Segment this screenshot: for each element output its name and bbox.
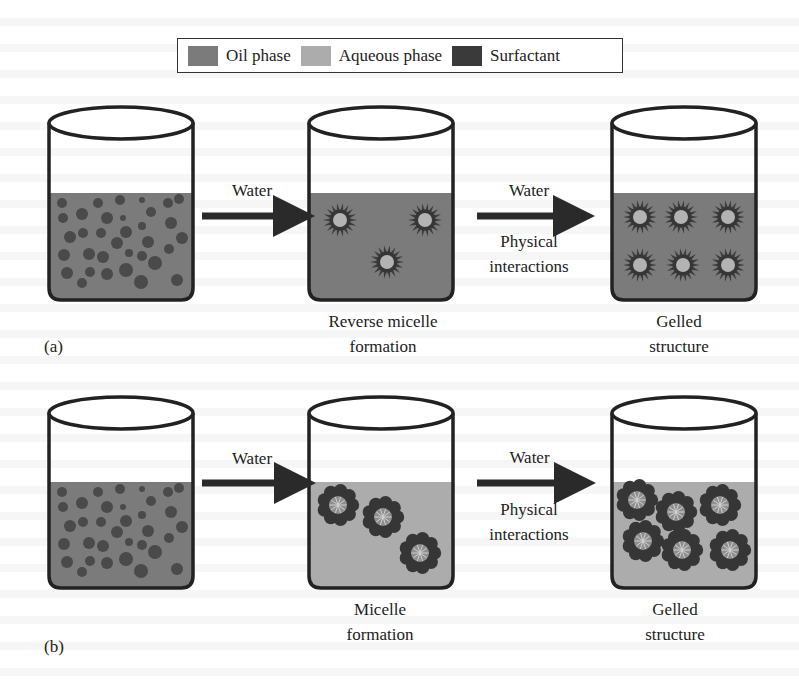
arrow-label-physical: Physical (467, 229, 591, 254)
arrow-label-water: Water (477, 178, 581, 203)
micelle-core (676, 258, 690, 272)
arrow-label-water: Water (477, 445, 582, 470)
surfactant-swatch-icon (452, 46, 482, 66)
oil-droplet (93, 487, 103, 497)
oil-droplet (101, 212, 113, 224)
oil-droplet (125, 538, 133, 546)
oil-droplet (58, 502, 68, 512)
arrow-label-water: Water (202, 178, 302, 203)
aqueous-swatch-icon (301, 46, 331, 66)
legend: Oil phase Aqueous phase Surfactant (177, 38, 623, 73)
legend-label: Oil phase (226, 46, 291, 66)
oil-droplet (171, 274, 183, 286)
oil-droplet (57, 198, 67, 208)
oil-droplet (138, 511, 146, 519)
micelle-core (633, 210, 647, 224)
oil-droplet (76, 497, 88, 509)
oil-droplet (85, 556, 95, 566)
legend-label: Aqueous phase (339, 46, 442, 66)
oil-droplet (138, 222, 146, 230)
oil-droplet (139, 197, 145, 203)
oil-swatch-icon (188, 46, 218, 66)
micelle-core (633, 258, 647, 272)
panel-label-a: (a) (44, 334, 74, 359)
caption-gelled: Gelled (600, 597, 750, 622)
oil-droplet (78, 228, 88, 238)
oil-droplet (163, 487, 173, 497)
oil-droplet (171, 563, 183, 575)
oil-droplet (137, 251, 147, 261)
beaker-rim (612, 397, 756, 429)
oil-droplet (115, 195, 125, 205)
beaker-rim (309, 397, 453, 429)
oil-droplet (148, 256, 162, 270)
oil-droplet (96, 517, 106, 527)
micelle-core (380, 255, 394, 269)
oil-droplet (120, 215, 126, 221)
oil-droplet (93, 198, 103, 208)
oil-droplet (176, 232, 188, 244)
caption-structure: structure (604, 334, 754, 359)
oil-droplet (64, 231, 76, 243)
caption-reverse-micelle: Reverse micelle (303, 309, 463, 334)
oil-droplet (174, 483, 184, 493)
oil-droplet (78, 517, 88, 527)
oil-droplet (148, 545, 162, 559)
oil-droplet (120, 226, 132, 238)
oil-droplet (174, 194, 184, 204)
beaker-rim (309, 107, 453, 139)
oil-droplet (77, 567, 87, 577)
oil-droplet (164, 533, 174, 543)
figure-canvas: Oil phase Aqueous phase Surfactant Water… (0, 0, 799, 684)
beaker-rim (612, 107, 756, 139)
oil-droplet (57, 487, 67, 497)
legend-item-aqueous: Aqueous phase (301, 46, 446, 66)
legend-item-surfactant: Surfactant (452, 46, 564, 66)
oil-droplet (77, 278, 87, 288)
oil-droplet (134, 564, 148, 578)
arrow-label-water: Water (202, 446, 302, 471)
oil-droplet (120, 515, 132, 527)
oil-droplet (58, 213, 68, 223)
oil-droplet (164, 244, 174, 254)
oil-droplet (146, 207, 156, 217)
oil-droplet (111, 526, 123, 538)
legend-item-oil: Oil phase (188, 46, 295, 66)
arrow-label-interactions: interactions (467, 254, 591, 279)
oil-droplet (119, 552, 133, 566)
caption-micelle: Micelle (303, 597, 457, 622)
beaker-rim (49, 397, 193, 429)
oil-droplet (125, 249, 133, 257)
oil-droplet (58, 249, 70, 261)
oil-droplet (165, 217, 177, 229)
legend-label: Surfactant (490, 46, 560, 66)
oil-droplet (97, 540, 109, 552)
oil-droplet (139, 486, 145, 492)
micelle-core (721, 258, 735, 272)
oil-droplet (97, 251, 109, 263)
oil-droplet (61, 267, 73, 279)
oil-droplet (115, 484, 125, 494)
oil-droplet (137, 540, 147, 550)
oil-droplet (76, 208, 88, 220)
oil-droplet (85, 267, 95, 277)
oil-droplet (165, 506, 177, 518)
oil-droplet (64, 520, 76, 532)
oil-droplet (111, 237, 123, 249)
oil-droplet (176, 521, 188, 533)
oil-droplet (163, 198, 173, 208)
micelle-core (674, 210, 688, 224)
caption-formation: formation (303, 334, 463, 359)
micelle-core (721, 210, 735, 224)
arrow-label-interactions: interactions (467, 522, 591, 547)
oil-droplet (142, 525, 154, 537)
oil-droplet (101, 501, 113, 513)
micelle-core (333, 213, 347, 227)
caption-formation: formation (303, 622, 457, 647)
oil-droplet (119, 263, 133, 277)
caption-structure: structure (600, 622, 750, 647)
beaker-rim (49, 107, 193, 139)
panel-label-b: (b) (44, 634, 74, 659)
oil-droplet (58, 538, 70, 550)
oil-droplet (134, 275, 148, 289)
